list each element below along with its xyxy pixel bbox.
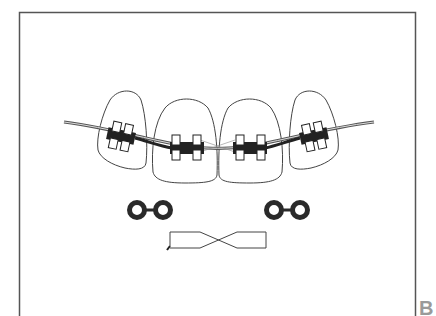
elastic-ligature-left (130, 203, 171, 218)
braces-diagram: B (0, 0, 436, 316)
panel-label: B (419, 298, 433, 316)
bracket-right-lateral (298, 120, 331, 152)
bracket-left-lateral (104, 120, 137, 152)
bracket-left-central (170, 135, 204, 160)
diagram-canvas (0, 0, 436, 316)
twisted-wire-ligature (167, 232, 266, 250)
elastic-ligature-right (267, 203, 308, 218)
bracket-right-central (233, 135, 267, 160)
